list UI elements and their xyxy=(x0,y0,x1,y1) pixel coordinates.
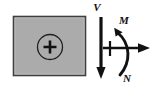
label-moment-M: M xyxy=(118,14,130,26)
moment-arc-arrow xyxy=(114,28,128,75)
normal-arrow-head xyxy=(138,43,150,53)
label-shear-V: V xyxy=(93,1,102,13)
shear-arrow-head xyxy=(96,67,105,79)
moment-arc-shaft xyxy=(118,33,128,76)
statics-force-diagram: V M N xyxy=(0,0,155,89)
diagram-canvas: V M N xyxy=(0,0,155,89)
label-normal-N: N xyxy=(122,72,132,84)
